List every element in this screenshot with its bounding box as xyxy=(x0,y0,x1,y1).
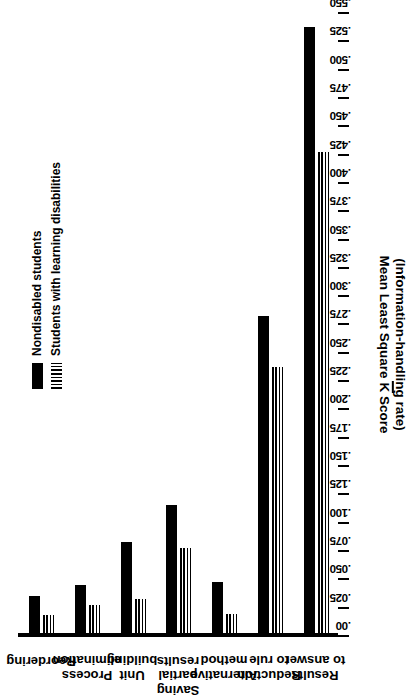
category-label: Reordering xyxy=(0,653,101,668)
axis-tick xyxy=(338,522,349,524)
axis-tick xyxy=(338,210,349,212)
bar-group xyxy=(18,8,64,633)
axis-tick xyxy=(338,239,349,241)
value-axis-line xyxy=(18,633,338,637)
axis-tick-label: .00 xyxy=(336,620,351,632)
bar-learning-disabilities xyxy=(180,548,191,633)
bar-nondisabled xyxy=(166,505,177,633)
bar-group xyxy=(292,8,338,633)
axis-tick xyxy=(338,352,349,354)
bar-group xyxy=(109,8,155,633)
bar-group xyxy=(64,8,110,633)
axis-tick xyxy=(338,97,349,99)
bar-nondisabled xyxy=(304,27,315,633)
axis-tick xyxy=(338,408,349,410)
bar-groups xyxy=(18,8,338,633)
bar-group xyxy=(201,8,247,633)
bar-learning-disabilities xyxy=(89,605,100,633)
bar-group xyxy=(247,8,293,633)
axis-tick xyxy=(338,550,349,552)
plot-area: .550.525.500.475.450.425.400.375.350.325… xyxy=(18,8,338,637)
bar-learning-disabilities xyxy=(135,599,146,633)
axis-tick xyxy=(338,154,349,156)
axis-tick xyxy=(338,40,349,42)
axis-tick xyxy=(338,493,349,495)
axis-tick xyxy=(338,295,349,297)
axis-title-line2: (Information-handling rate) xyxy=(392,0,408,689)
axis-tick xyxy=(338,437,349,439)
bar-learning-disabilities xyxy=(272,367,283,633)
bar-group xyxy=(155,8,201,633)
bar-nondisabled xyxy=(258,316,269,633)
axis-title-line1: Mean Least Square K Score xyxy=(376,0,392,689)
bar-nondisabled xyxy=(29,596,40,633)
axis-tick xyxy=(338,324,349,326)
bar-learning-disabilities xyxy=(43,615,54,633)
axis-tick xyxy=(338,12,349,14)
bar-nondisabled xyxy=(212,582,223,633)
axis-tick xyxy=(338,125,349,127)
axis-tick xyxy=(338,465,349,467)
axis-tick xyxy=(338,69,349,71)
bar-learning-disabilities xyxy=(318,152,329,633)
axis-tick xyxy=(338,635,349,637)
value-axis-title: (Information-handling rate) Mean Least S… xyxy=(376,0,408,689)
axis-tick xyxy=(338,578,349,580)
bar-learning-disabilities xyxy=(226,614,237,633)
bar-nondisabled xyxy=(121,542,132,633)
axis-tick xyxy=(338,267,349,269)
axis-tick xyxy=(338,607,349,609)
axis-tick xyxy=(338,380,349,382)
axis-tick xyxy=(338,182,349,184)
bar-nondisabled xyxy=(75,585,86,633)
